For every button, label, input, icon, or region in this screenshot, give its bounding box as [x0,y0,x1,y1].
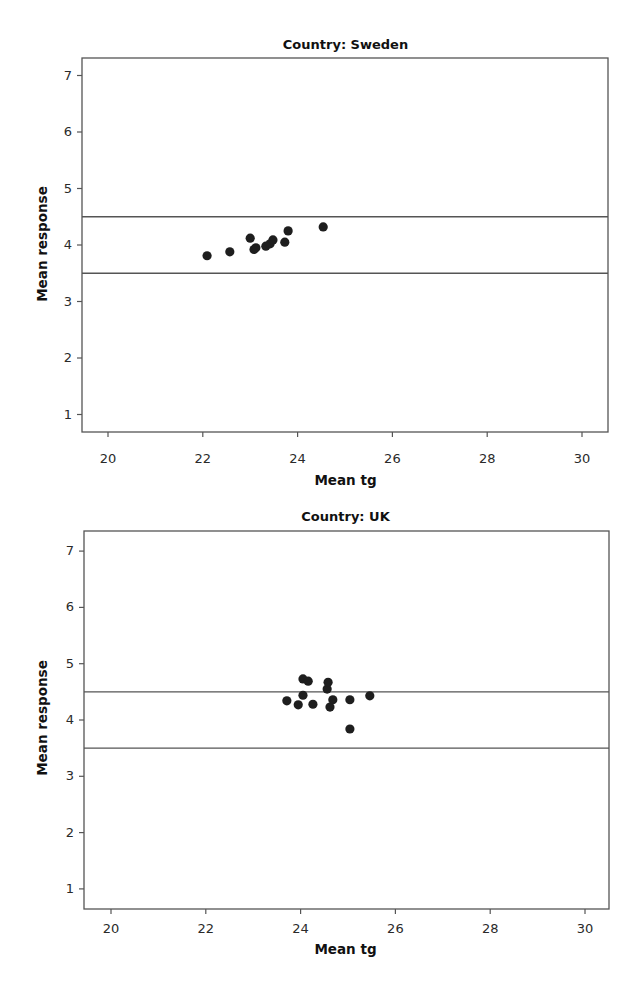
data-point [282,696,291,705]
y-tick-label: 7 [54,543,74,558]
y-tick-label: 1 [54,881,74,896]
x-tick-label: 28 [475,921,505,936]
data-point [298,691,307,700]
data-point [365,691,374,700]
y-tick-label: 2 [54,825,74,840]
data-point [345,695,354,704]
x-axis-label: Mean tg [82,941,609,957]
plot-frame [84,531,609,909]
chart-panel-uk: Country: UK Mean response Mean tg 123456… [0,0,643,989]
data-point [308,700,317,709]
data-point [304,677,313,686]
scatter-plot-uk [0,0,643,989]
x-tick-label: 26 [380,921,410,936]
x-tick-label: 24 [286,921,316,936]
data-point [345,724,354,733]
x-tick-label: 22 [191,921,221,936]
data-point [323,678,332,687]
y-tick-label: 6 [54,599,74,614]
y-axis-label: Mean response [34,618,50,818]
x-tick-label: 30 [570,921,600,936]
data-point [294,700,303,709]
x-tick-label: 20 [96,921,126,936]
y-tick-label: 5 [54,656,74,671]
y-tick-label: 3 [54,768,74,783]
y-tick-label: 4 [54,712,74,727]
data-point [328,695,337,704]
